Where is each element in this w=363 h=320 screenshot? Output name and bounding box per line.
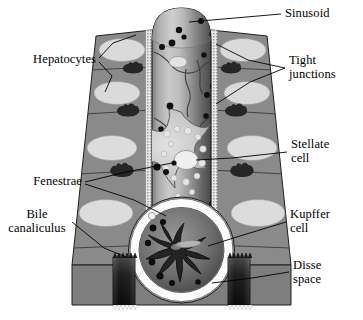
sinusoid-cross-section [129,197,235,303]
label-stellate-cell: Stellate cell [291,138,329,165]
bile-canaliculus-right-channel [228,253,252,310]
junction-node [148,212,155,219]
label-fenestrae: Fenestrae [0,175,82,189]
figure-canvas: Sinusoid Tight junctions Hepatocytes Ste… [0,0,363,320]
stellate-nucleus [174,151,198,170]
label-hepatocytes: Hepatocytes [0,53,96,67]
label-tight-junctions: Tight junctions [289,54,336,81]
label-sinusoid: Sinusoid [285,7,330,21]
bile-canaliculus-left-channel [113,253,137,310]
label-kupffer-cell: Kupffer cell [290,208,330,235]
label-bile-canaliculus: Bile canaliculus [4,208,70,235]
label-disse-space: Disse space [293,259,321,286]
lumen-opening [169,57,187,68]
